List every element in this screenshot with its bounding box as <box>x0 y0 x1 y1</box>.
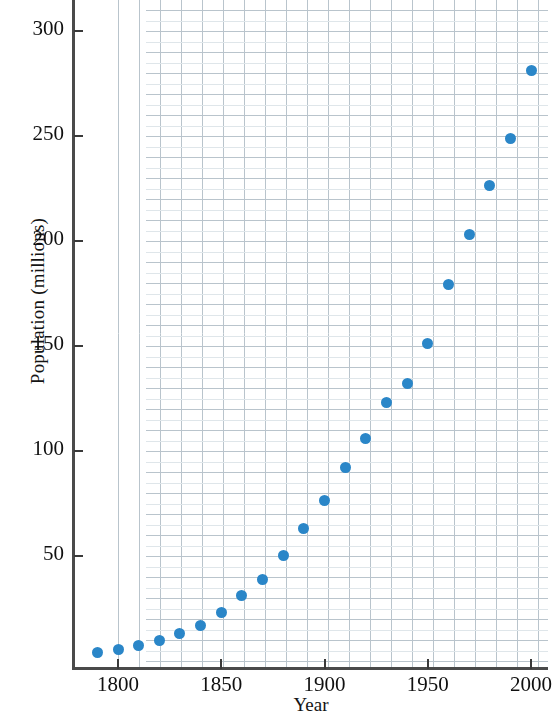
y-tick-mark <box>74 555 83 557</box>
x-tick-mark <box>530 659 532 669</box>
y-tick-mark <box>74 135 83 137</box>
y-tick-mark <box>74 345 83 347</box>
data-point <box>278 550 289 561</box>
x-tick-label: 1850 <box>176 672 266 697</box>
y-tick-mark <box>74 30 83 32</box>
x-tick-mark <box>220 659 222 669</box>
grid-canvas <box>74 0 548 668</box>
data-point <box>443 279 454 290</box>
y-tick-label: 100 <box>2 436 64 461</box>
y-tick-mark <box>74 240 83 242</box>
data-point <box>381 397 392 408</box>
y-tick-label: 200 <box>2 226 64 251</box>
x-tick-mark <box>117 659 119 669</box>
data-point <box>526 65 537 76</box>
data-point <box>402 378 413 389</box>
data-point <box>464 229 475 240</box>
y-tick-label: 150 <box>2 331 64 356</box>
data-point <box>505 133 516 144</box>
y-tick-mark <box>74 450 83 452</box>
y-tick-label: 50 <box>2 541 64 566</box>
y-axis-title: Population (millions) <box>27 171 49 431</box>
x-tick-mark <box>324 659 326 669</box>
data-point <box>195 620 206 631</box>
x-axis-title: Year <box>74 694 548 716</box>
x-tick-label: 1800 <box>73 672 163 697</box>
x-tick-label: 1900 <box>280 672 370 697</box>
y-tick-label: 300 <box>2 16 64 41</box>
y-tick-label: 250 <box>2 121 64 146</box>
x-tick-label: 1950 <box>383 672 473 697</box>
plot-area <box>74 0 548 668</box>
data-point <box>236 590 247 601</box>
x-tick-label: 2000 <box>486 672 556 697</box>
data-point <box>113 644 124 655</box>
data-point <box>340 462 351 473</box>
data-point <box>484 180 495 191</box>
data-point <box>216 607 227 618</box>
y-axis-line <box>72 0 75 669</box>
x-tick-mark <box>427 659 429 669</box>
x-axis-line <box>72 667 548 670</box>
data-point <box>422 338 433 349</box>
